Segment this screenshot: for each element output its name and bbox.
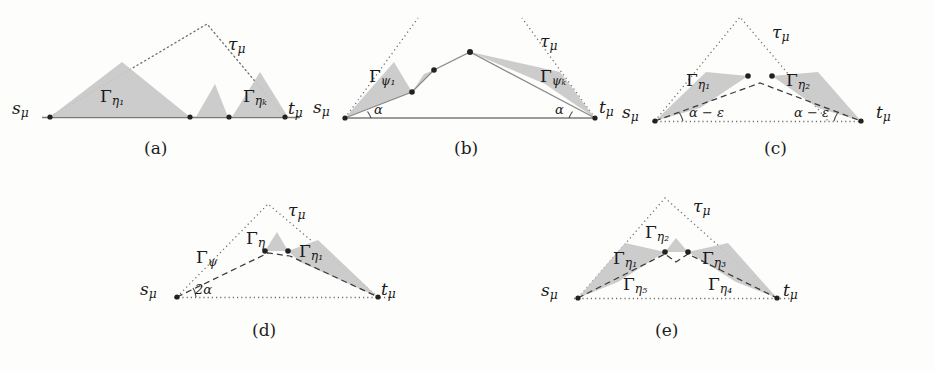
panel-a-label-gamma-etak: Γηₖ [243,88,267,108]
panel-b-vertex-source [342,115,347,120]
panel-c-graphics [652,17,866,124]
panel-a-label-gamma-eta1: Γη₁ [100,88,124,108]
panel-c-vertex-target [858,118,863,123]
panel-c-angle-arc-right [834,113,838,121]
panel-d-label-tau: τμ [288,202,305,222]
panel-e-label-gamma-eta4: Γη₄ [708,276,732,296]
panel-e-vertex-target [774,295,779,300]
panel-e-label-gamma-eta2: Γη₂ [645,224,669,244]
panel-c-label-target: tμ [876,104,891,124]
panel-d-label-source: sμ [140,281,157,301]
panel-e-label-gamma-eta5: Γη₅ [623,276,647,296]
panel-a-label-tau: τμ [228,36,245,56]
panel-c-label-angle-right: α − ε [794,106,829,119]
panel-b-angle-arc-left [368,112,372,119]
panel-d-caption: (d) [252,322,276,339]
panel-e-label-gamma-eta1: Γη₁ [613,250,637,270]
panel-a-vertex-mid2 [226,114,231,119]
panel-e-label-target: tμ [783,282,798,302]
panel-a-vertex-mid1 [187,114,192,119]
panel-e-label-source: sμ [541,282,558,302]
panel-d-vertex-target [375,294,380,299]
panel-d-label-gamma-eta1: Γη₁ [299,243,323,263]
panel-c-label-gamma-eta1: Γη₁ [686,72,710,92]
panel-d-vertex-mid-right [285,248,291,254]
panel-a-region-middle [196,84,228,117]
panel-b-caption: (b) [454,140,478,157]
panel-c-angle-arc-left [680,113,684,121]
panel-c-label-angle-left: α − ε [689,106,724,119]
panel-b-label-source: sμ [313,99,330,119]
panel-c-vertex-source [652,118,657,123]
panel-b-label-gamma-psi1: Γψ₁ [369,68,395,88]
panel-b-vertex-target [592,115,597,120]
panel-a-label-source: sμ [12,100,29,120]
panel-a-label-target: tμ [288,100,303,120]
panel-c-label-gamma-eta2: Γη₂ [786,72,810,92]
panel-d-vertex-source [174,294,179,299]
panel-b-label-angle-left: α [374,103,383,116]
figure-root: sμ tμ τμ Γη₁ Γηₖ (a) sμ tμ τμ Γψ₁ Γψₖ α … [0,0,934,371]
panel-d-label-target: tμ [381,281,396,301]
panel-c-vertex-mid-right [769,73,775,79]
panel-d-region-eta [265,232,288,251]
panel-e-caption: (e) [655,322,678,339]
panel-d-label-angle: 2α [195,283,212,296]
panel-b-label-tau: τμ [540,33,557,53]
panel-c-caption: (c) [764,140,787,157]
panel-b-vertex-p1 [409,89,415,95]
panel-e-vertex-source [575,295,580,300]
panel-b-angle-arc-right [569,112,573,119]
panel-a-caption: (a) [144,140,167,157]
panel-d-label-gamma-eta: Γη [246,230,265,250]
panel-e-graphics [574,198,790,301]
panel-c-label-tau: τμ [772,24,789,44]
panel-b-label-target: tμ [599,99,614,119]
panel-c-vertex-mid-left [745,73,751,79]
panel-e-vertex-mid-right [685,249,691,255]
panel-b-vertex-p2 [431,67,437,73]
figure-canvas [0,0,934,371]
panel-c-label-source: sμ [622,104,639,124]
panel-d-label-gamma-psi: Γψ [196,249,217,269]
panel-e-label-tau: τμ [693,198,710,218]
panel-e-vertex-mid-left [662,249,668,255]
panel-e-label-gamma-eta3: Γη₃ [702,250,726,270]
panel-b-vertex-apex [467,49,473,55]
panel-b-label-angle-right: α [555,103,564,116]
panel-b-label-gamma-psik: Γψₖ [540,68,566,88]
panel-a-vertex-target [282,114,287,119]
panel-a-vertex-source [47,114,52,119]
